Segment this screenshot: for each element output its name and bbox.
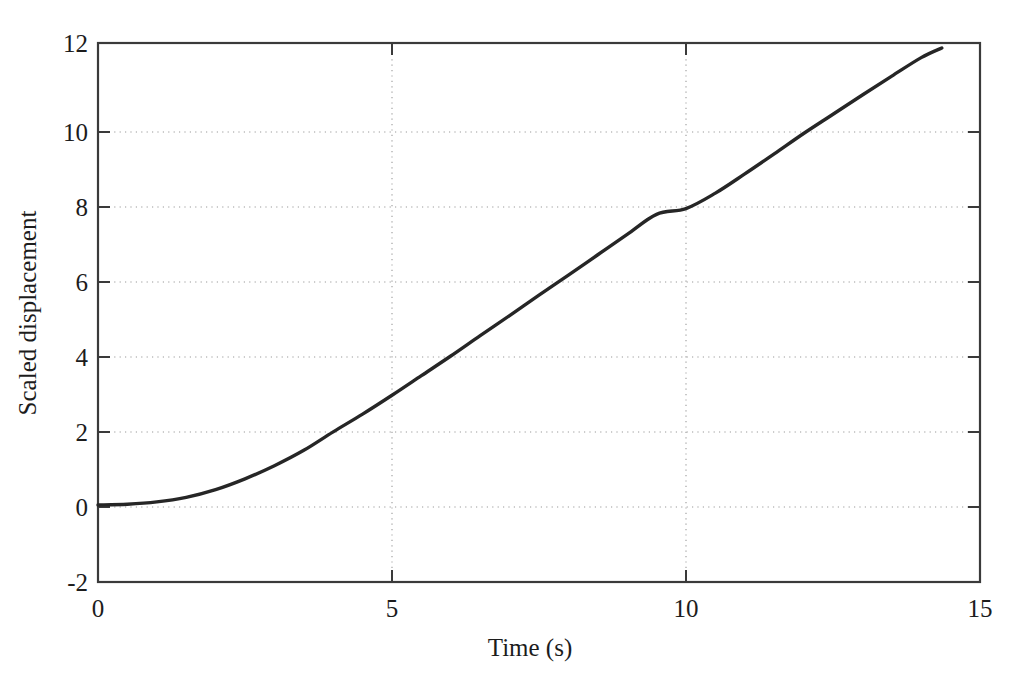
x-tick-label-0: 0 xyxy=(92,595,105,622)
y-tick-label-2: 2 xyxy=(76,419,89,446)
y-tick-label-neg2: -2 xyxy=(67,569,88,596)
plot-frame xyxy=(98,43,980,582)
x-tick-marks xyxy=(392,43,686,582)
y-tick-label-0: 0 xyxy=(76,494,89,521)
y-tick-marks xyxy=(98,132,980,507)
y-tick-label-6: 6 xyxy=(76,269,89,296)
horizontal-gridlines xyxy=(98,132,980,507)
x-tick-label-10: 10 xyxy=(674,595,699,622)
x-tick-label-5: 5 xyxy=(386,595,399,622)
y-tick-label-10: 10 xyxy=(63,119,88,146)
y-tick-label-12: 12 xyxy=(63,30,88,57)
x-axis-title: Time (s) xyxy=(488,634,573,662)
y-axis-title: Scaled displacement xyxy=(14,211,41,416)
vertical-gridlines xyxy=(392,43,686,582)
x-tick-label-15: 15 xyxy=(968,595,993,622)
data-curve-scaled-displacement xyxy=(98,48,942,505)
figure-panel: 12 10 8 6 4 2 0 -2 0 5 10 15 Time (s) Sc… xyxy=(0,0,1027,678)
line-chart: 12 10 8 6 4 2 0 -2 0 5 10 15 Time (s) Sc… xyxy=(0,0,1027,678)
y-tick-label-4: 4 xyxy=(76,344,89,371)
y-tick-label-8: 8 xyxy=(76,194,89,221)
